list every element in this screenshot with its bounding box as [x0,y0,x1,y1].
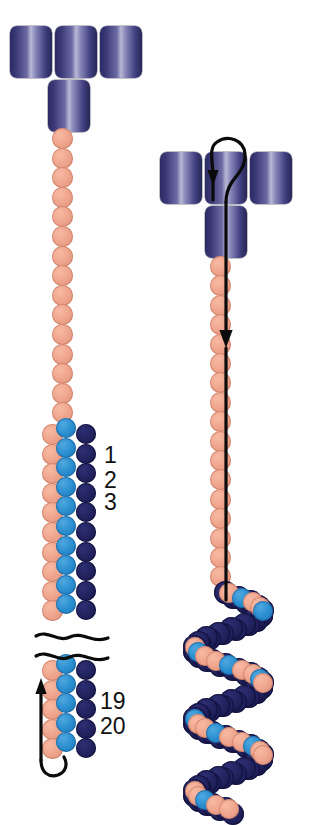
break-mark-upper [36,634,108,640]
repeat-number-label-3: 3 [104,491,117,514]
tail-hook-arrow [35,678,66,776]
axis-down-arrow [219,202,232,600]
break-mark-lower [36,654,108,660]
repeat-number-label-20: 20 [100,715,126,738]
repeat-number-label-1: 1 [104,444,117,467]
head-loop-arrow [207,138,245,202]
repeat-number-label-19: 19 [100,690,126,713]
